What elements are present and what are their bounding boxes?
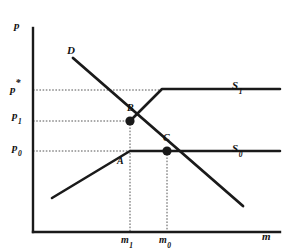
point-b-label: B	[127, 103, 134, 113]
supply-curve-s1-label-text: S	[232, 79, 238, 91]
supply-curve-s1-path	[130, 89, 280, 121]
quantity-label-m-one: m1	[121, 235, 133, 248]
price-label-p-zero: p0	[12, 142, 21, 156]
point-b-marker	[125, 116, 134, 125]
price-label-p-star-superscript: *	[16, 77, 21, 88]
supply-curve-s0-path	[52, 151, 280, 198]
y-axis-label: p	[14, 20, 20, 31]
demand-curve-path	[73, 58, 243, 206]
price-label-p-zero-subscript: 0	[18, 149, 22, 158]
quantity-label-m-one-subscript: 1	[129, 241, 133, 249]
quantity-label-m-zero-subscript: 0	[167, 241, 171, 249]
demand-curve-label: D	[67, 45, 75, 56]
price-label-p-one-text: p	[12, 109, 18, 121]
diagram-canvas	[0, 0, 286, 249]
price-label-p-zero-text: p	[12, 141, 18, 153]
x-axis-label: m	[262, 231, 271, 242]
price-label-p-one: p1	[12, 110, 21, 124]
supply-curve-s0-label-subscript: 0	[239, 150, 243, 159]
supply-demand-figure: p m p* p1 p0 m1 m0 D S0 S1 A B C	[0, 0, 286, 249]
point-c-label: C	[163, 133, 170, 143]
supply-curve-s0-label-text: S	[232, 142, 238, 154]
price-label-p-star-text: p	[10, 83, 16, 95]
price-label-p-star: p*	[10, 80, 21, 95]
price-label-p-one-subscript: 1	[18, 117, 22, 126]
point-c-marker	[162, 146, 171, 155]
quantity-label-m-one-text: m	[121, 234, 129, 245]
quantity-label-m-zero-text: m	[159, 234, 167, 245]
supply-curve-s1-label: S1	[232, 80, 242, 94]
supply-curve-s0-label: S0	[232, 143, 242, 157]
quantity-label-m-zero: m0	[159, 235, 171, 248]
point-a-label: A	[117, 156, 124, 166]
supply-curve-s1-label-subscript: 1	[239, 87, 243, 96]
